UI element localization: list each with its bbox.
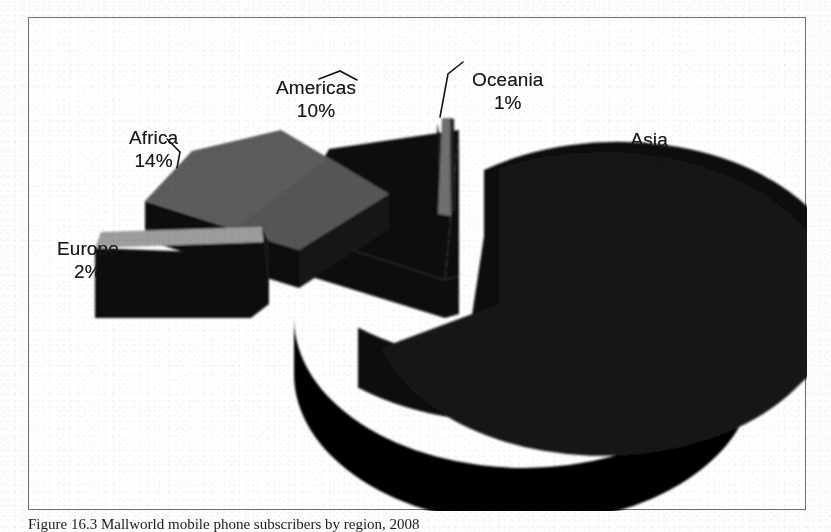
- slice-label-asia-percent: 73%: [630, 151, 668, 174]
- pie-chart-svg: [29, 18, 807, 511]
- slice-label-africa-percent: 14%: [129, 149, 178, 172]
- slice-label-oceania-percent: 1%: [472, 91, 543, 114]
- slice-label-asia: Asia 73%: [630, 128, 668, 174]
- slice-label-oceania: Oceania 1%: [472, 68, 543, 114]
- figure-caption-number: Figure 16.3: [28, 516, 97, 532]
- figure-frame: Africa 14% Europe 2% Americas 10% Oceani…: [28, 17, 806, 510]
- slice-label-europe: Europe 2%: [57, 237, 119, 283]
- scanned-page: Africa 14% Europe 2% Americas 10% Oceani…: [0, 0, 831, 532]
- slice-label-americas: Americas 10%: [276, 76, 356, 122]
- slice-label-americas-name: Americas: [276, 76, 356, 99]
- leader-line-oceania: [440, 62, 463, 117]
- figure-caption-text: Mallworld mobile phone subscribers by re…: [101, 516, 420, 532]
- slice-label-oceania-name: Oceania: [472, 68, 543, 91]
- figure-caption: Figure 16.3 Mallworld mobile phone subsc…: [28, 516, 808, 532]
- pie-chart: Africa 14% Europe 2% Americas 10% Oceani…: [29, 18, 805, 509]
- slice-label-africa-name: Africa: [129, 126, 178, 149]
- slice-label-europe-name: Europe: [57, 237, 119, 260]
- slice-label-americas-percent: 10%: [276, 99, 356, 122]
- slice-label-europe-percent: 2%: [57, 260, 119, 283]
- slice-label-africa: Africa 14%: [129, 126, 178, 172]
- slice-label-asia-name: Asia: [630, 128, 668, 151]
